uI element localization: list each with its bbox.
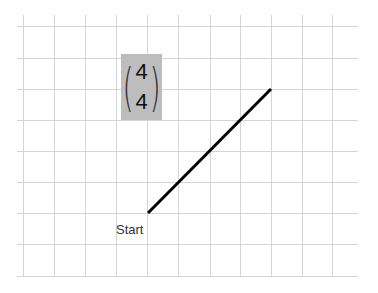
start-label: Start bbox=[116, 222, 143, 237]
right-parenthesis: ) bbox=[149, 58, 160, 116]
grid-canvas bbox=[0, 0, 378, 293]
grid-lines bbox=[17, 15, 358, 277]
vector-notation: ( 4 4 ) bbox=[121, 54, 162, 120]
